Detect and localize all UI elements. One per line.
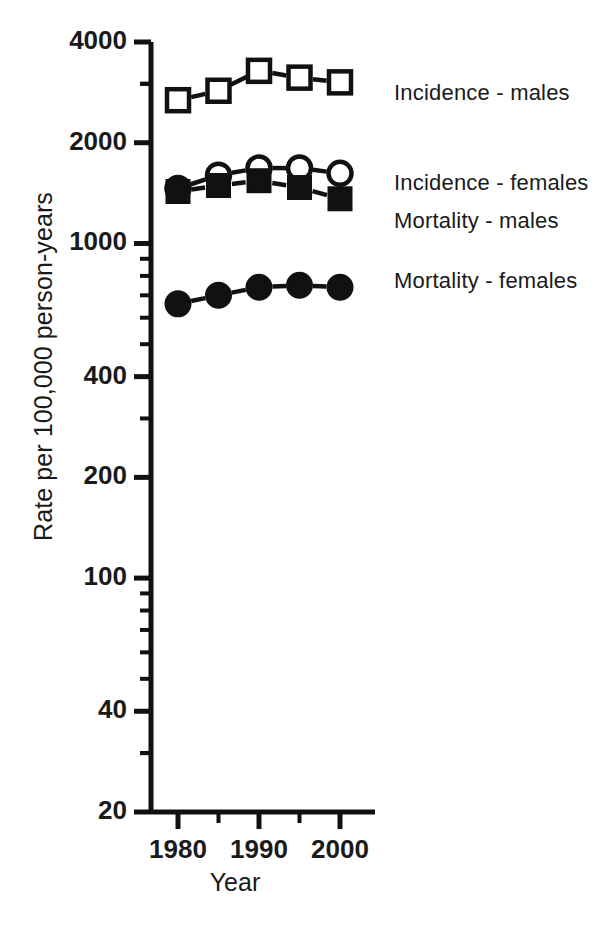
y-axis-label: Rate per 100,000 person-years: [29, 152, 58, 582]
data-series-group: [166, 60, 353, 317]
figure: Rate per 100,000 person-years Year 20401…: [0, 0, 610, 925]
y-tick-label: 2000: [69, 126, 127, 157]
y-tick-label: 100: [84, 561, 127, 592]
y-axis-label-text: Rate per 100,000 person-years: [29, 192, 57, 541]
x-tick-label: 1980: [133, 834, 223, 865]
series-label: Mortality - males: [394, 208, 559, 234]
series-0: [167, 60, 351, 111]
series-label: Incidence - females: [394, 170, 589, 196]
y-tick-label: 400: [84, 360, 127, 391]
y-tick-label: 4000: [69, 25, 127, 56]
y-tick-label: 200: [84, 460, 127, 491]
series-3: [166, 273, 353, 317]
x-tick-label: 2000: [295, 834, 385, 865]
x-tick-label: 1990: [214, 834, 304, 865]
series-2: [167, 170, 351, 210]
y-tick-label: 40: [98, 694, 127, 725]
y-tick-label: 20: [98, 795, 127, 826]
x-axis-label: Year: [0, 868, 470, 897]
y-tick-label: 1000: [69, 226, 127, 257]
series-label: Mortality - females: [394, 268, 578, 294]
series-label: Incidence - males: [394, 80, 570, 106]
